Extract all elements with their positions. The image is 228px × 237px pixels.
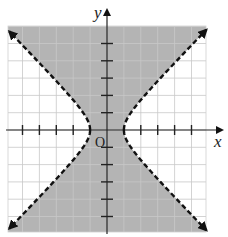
x-axis-label: x bbox=[213, 132, 222, 151]
hyperbola-graph: y x O bbox=[0, 0, 228, 237]
origin-label: O bbox=[95, 135, 105, 150]
y-axis-label: y bbox=[92, 3, 102, 22]
